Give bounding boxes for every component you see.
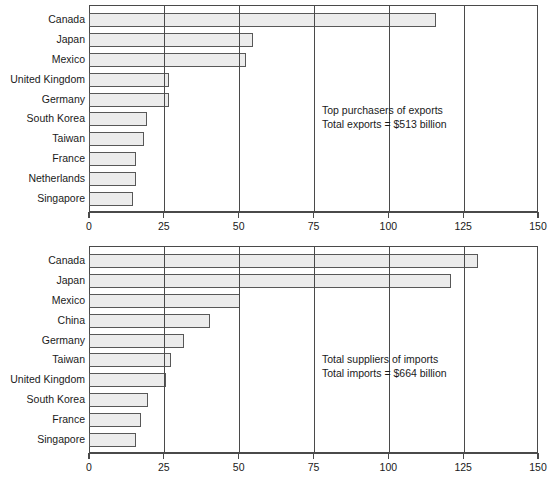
- x-tick-25: [163, 212, 164, 218]
- x-tick-label-50: 50: [233, 220, 245, 232]
- x-tick-label-150: 150: [529, 461, 547, 473]
- x-tick-25: [163, 453, 164, 459]
- category-label-germany: Germany: [42, 93, 85, 105]
- bar-south-korea: [89, 393, 148, 407]
- bar-united-kingdom: [89, 73, 169, 87]
- category-label-canada: Canada: [48, 13, 85, 25]
- exports-plot-frame: [89, 5, 538, 212]
- category-label-singapore: Singapore: [37, 433, 85, 445]
- bar-taiwan: [89, 132, 144, 146]
- category-label-singapore: Singapore: [37, 192, 85, 204]
- exports-annotation: Top purchasers of exports Total exports …: [322, 104, 447, 131]
- bar-netherlands: [89, 172, 136, 186]
- bar-germany: [89, 334, 184, 348]
- gridline-100: [389, 247, 390, 452]
- bar-mexico: [89, 53, 246, 67]
- imports-annotation-line-2: Total imports = $664 billion: [322, 367, 447, 381]
- bar-canada: [89, 254, 478, 268]
- x-tick-75: [313, 212, 314, 218]
- bar-france: [89, 152, 136, 166]
- exports-annotation-line-2: Total exports = $513 billion: [322, 118, 447, 132]
- x-tick-label-25: 25: [158, 220, 170, 232]
- x-tick-50: [238, 453, 239, 459]
- bar-south-korea: [89, 112, 147, 126]
- gridline-25: [164, 6, 165, 211]
- bar-singapore: [89, 433, 136, 447]
- x-tick-label-75: 75: [308, 220, 320, 232]
- category-label-south-korea: South Korea: [27, 393, 85, 405]
- category-label-united-kingdom: United Kingdom: [10, 73, 85, 85]
- bar-japan: [89, 33, 253, 47]
- category-label-south-korea: South Korea: [27, 112, 85, 124]
- bar-chart-page: { "chart_data": [ { "type": "bar", "orie…: [0, 0, 549, 482]
- gridline-50: [239, 6, 240, 211]
- x-tick-75: [313, 453, 314, 459]
- x-tick-0: [88, 212, 89, 218]
- category-label-france: France: [52, 152, 85, 164]
- category-label-netherlands: Netherlands: [28, 172, 85, 184]
- x-tick-label-125: 125: [454, 461, 472, 473]
- bar-japan: [89, 274, 451, 288]
- x-tick-label-100: 100: [380, 220, 398, 232]
- x-tick-label-50: 50: [233, 461, 245, 473]
- bar-china: [89, 314, 210, 328]
- category-label-canada: Canada: [48, 254, 85, 266]
- gridline-50: [239, 247, 240, 452]
- imports-annotation: Total suppliers of imports Total imports…: [322, 353, 447, 380]
- category-label-taiwan: Taiwan: [52, 353, 85, 365]
- imports-plot-frame: [89, 246, 538, 453]
- category-label-france: France: [52, 413, 85, 425]
- x-tick-150: [537, 453, 538, 459]
- gridline-125: [464, 6, 465, 211]
- bar-united-kingdom: [89, 373, 166, 387]
- x-tick-150: [537, 212, 538, 218]
- x-tick-125: [463, 453, 464, 459]
- bar-taiwan: [89, 353, 171, 367]
- category-label-japan: Japan: [56, 33, 85, 45]
- gridline-75: [314, 247, 315, 452]
- gridline-25: [164, 247, 165, 452]
- x-tick-100: [388, 453, 389, 459]
- x-tick-label-150: 150: [529, 220, 547, 232]
- category-label-mexico: Mexico: [52, 53, 85, 65]
- x-tick-label-125: 125: [454, 220, 472, 232]
- imports-chart: CanadaJapanMexicoChinaGermanyTaiwanUnite…: [0, 240, 549, 482]
- exports-annotation-line-1: Top purchasers of exports: [322, 104, 447, 118]
- x-tick-0: [88, 453, 89, 459]
- gridline-75: [314, 6, 315, 211]
- x-tick-label-100: 100: [380, 461, 398, 473]
- exports-chart: CanadaJapanMexicoUnited KingdomGermanySo…: [0, 0, 549, 240]
- x-tick-50: [238, 212, 239, 218]
- bar-germany: [89, 93, 169, 107]
- bar-france: [89, 413, 141, 427]
- category-label-germany: Germany: [42, 334, 85, 346]
- x-tick-100: [388, 212, 389, 218]
- x-tick-label-25: 25: [158, 461, 170, 473]
- category-label-china: China: [58, 314, 85, 326]
- imports-annotation-line-1: Total suppliers of imports: [322, 353, 447, 367]
- category-label-japan: Japan: [56, 274, 85, 286]
- x-tick-label-0: 0: [86, 461, 92, 473]
- gridline-125: [464, 247, 465, 452]
- x-tick-label-0: 0: [86, 220, 92, 232]
- category-label-mexico: Mexico: [52, 294, 85, 306]
- category-label-united-kingdom: United Kingdom: [10, 373, 85, 385]
- category-label-taiwan: Taiwan: [52, 132, 85, 144]
- bar-singapore: [89, 192, 133, 206]
- bar-canada: [89, 13, 436, 27]
- x-tick-label-75: 75: [308, 461, 320, 473]
- x-tick-125: [463, 212, 464, 218]
